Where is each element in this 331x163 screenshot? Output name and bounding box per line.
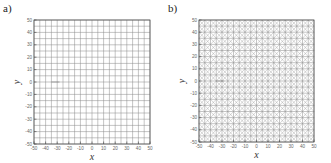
x-tick-label: -30	[219, 144, 226, 149]
panel-a: a) -50-40-30-20-1001020304050-50-40-30-2…	[0, 0, 165, 163]
x-tick-label: -10	[242, 144, 249, 149]
y-axis-label: y	[176, 78, 187, 84]
y-axis-label: y	[11, 79, 22, 85]
y-tick-label: 30	[27, 42, 33, 47]
y-tick-label: -30	[190, 115, 197, 120]
y-tick-label: 50	[27, 18, 33, 23]
x-tick-label: 10	[101, 146, 107, 151]
x-tick-label: 30	[288, 144, 294, 149]
chart-a: -50-40-30-20-1001020304050-50-40-30-20-1…	[0, 0, 165, 163]
y-tick-label: 10	[27, 67, 33, 72]
x-tick-label: -10	[77, 146, 84, 151]
y-tick-label: 0	[194, 79, 197, 84]
panel-b: b) -50-40-30-20-1001020304050-50-40-30-2…	[165, 0, 330, 163]
y-tick-label: 50	[192, 18, 198, 23]
x-tick-label: 30	[124, 146, 130, 151]
y-tick-label: 40	[27, 30, 33, 35]
x-tick-label: 20	[277, 144, 283, 149]
x-tick-label: 20	[113, 146, 119, 151]
y-tick-label: -50	[25, 142, 32, 147]
y-tick-label: 40	[192, 30, 198, 35]
x-tick-label: -20	[65, 146, 72, 151]
x-axis-label: x	[253, 149, 259, 160]
chart-b: -50-40-30-20-1001020304050-50-40-30-20-1…	[165, 0, 331, 163]
x-tick-label: -40	[207, 144, 214, 149]
y-tick-label: 0	[29, 80, 32, 85]
y-tick-label: -10	[190, 91, 197, 96]
y-tick-label: 10	[192, 66, 198, 71]
y-tick-label: 20	[192, 54, 198, 59]
y-tick-label: -40	[25, 129, 32, 134]
y-tick-label: -10	[25, 92, 32, 97]
x-tick-label: 10	[265, 144, 271, 149]
x-tick-label: -40	[42, 146, 49, 151]
x-tick-label: -50	[31, 146, 38, 151]
x-tick-label: -20	[230, 144, 237, 149]
y-tick-label: -30	[25, 117, 32, 122]
y-tick-label: -40	[190, 127, 197, 132]
x-axis-label: x	[89, 151, 95, 162]
x-tick-label: 40	[136, 146, 142, 151]
x-tick-label: -30	[54, 146, 61, 151]
y-tick-label: -20	[190, 103, 197, 108]
x-tick-label: 50	[147, 146, 153, 151]
y-tick-label: 30	[192, 42, 198, 47]
y-tick-label: -20	[25, 104, 32, 109]
x-tick-label: 50	[311, 144, 317, 149]
x-tick-label: -50	[196, 144, 203, 149]
x-tick-label: 40	[300, 144, 306, 149]
y-tick-label: 20	[27, 55, 33, 60]
y-tick-label: -50	[190, 140, 197, 145]
